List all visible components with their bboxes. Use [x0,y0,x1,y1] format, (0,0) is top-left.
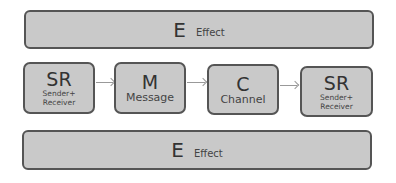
effect-label: Effect [194,148,223,159]
box-label: Sender+Receiver [43,89,76,107]
effect-letter: E [171,138,184,162]
message-box: M Message [114,62,186,114]
sender-receiver-box-left: SR Sender+Receiver [23,62,95,114]
sender-receiver-box-right: SR Sender+Receiver [300,66,373,117]
channel-box: C Channel [207,64,279,115]
box-letter: C [236,74,249,94]
effect-bar-bottom: E Effect [22,130,372,170]
box-letter: M [142,72,158,92]
effect-bar-top: E Effect [24,10,374,49]
box-label: Channel [220,94,265,106]
box-label: Message [126,92,174,104]
arrow-icon [96,82,113,83]
box-letter: SR [324,73,349,93]
arrow-icon [187,82,205,83]
arrow-icon [280,85,297,86]
effect-letter: E [173,18,186,42]
effect-label: Effect [196,27,225,38]
box-label: Sender+Receiver [320,93,353,111]
box-letter: SR [46,69,71,89]
